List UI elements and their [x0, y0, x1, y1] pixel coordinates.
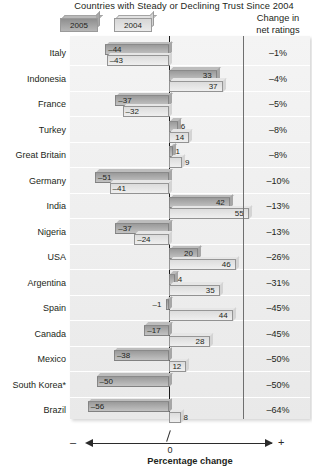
- country-label-mexico: Mexico: [0, 354, 66, 364]
- value-label-2004: 8: [184, 412, 188, 423]
- axis-plus-sign: +: [278, 436, 284, 448]
- country-label-indonesia: Indonesia: [0, 74, 66, 84]
- value-label-2005: 20: [184, 248, 193, 259]
- net-ratings-column-header: Change in net ratings: [246, 13, 310, 36]
- bar-front-face: [169, 157, 182, 168]
- country-label-italy: Italy: [0, 48, 66, 58]
- legend-label-2004: 2004: [114, 18, 152, 32]
- axis-minus-sign: –: [70, 436, 76, 448]
- chart-title: Countries with Steady or Declining Trust…: [58, 1, 310, 11]
- net-rating-usa: –26%: [246, 252, 310, 262]
- country-label-nigeria: Nigeria: [0, 227, 66, 237]
- bar-side-face: [169, 231, 172, 245]
- net-rating-argentina: –31%: [246, 278, 310, 288]
- net-rating-germany: –10%: [246, 176, 310, 186]
- net-rating-spain: –45%: [246, 303, 310, 313]
- bar-front-face: [166, 299, 170, 310]
- row-separator: [70, 193, 310, 194]
- country-label-canada: Canada: [0, 329, 66, 339]
- value-label-2004: 12: [172, 361, 181, 372]
- value-label-2005: –37: [118, 95, 131, 106]
- net-rating-mexico: –50%: [246, 354, 310, 364]
- row-separator: [70, 397, 310, 398]
- net-rating-canada: –45%: [246, 329, 310, 339]
- axis-arrow-left: [85, 439, 93, 447]
- value-label-2005: –38: [117, 350, 130, 361]
- net-rating-france: –5%: [246, 99, 310, 109]
- value-label-2004: –32: [126, 106, 139, 117]
- value-label-2005: 4: [178, 274, 182, 285]
- value-label-2004: 46: [222, 259, 231, 270]
- value-label-2005: 42: [216, 197, 225, 208]
- value-label-2005: –17: [147, 325, 160, 336]
- net-rating-turkey: –8%: [246, 125, 310, 135]
- row-separator: [70, 167, 310, 168]
- country-label-india: India: [0, 201, 66, 211]
- country-label-great-britain: Great Britain: [0, 150, 66, 160]
- chart-container: Countries with Steady or Declining Trust…: [0, 0, 312, 471]
- net-rating-india: –13%: [246, 201, 310, 211]
- country-label-south-korea-: South Korea*: [0, 380, 66, 390]
- bar-front-face: [169, 412, 181, 423]
- row-separator: [70, 244, 310, 245]
- country-label-brazil: Brazil: [0, 405, 66, 415]
- net-ratings-header-line2: net ratings: [246, 25, 310, 37]
- value-label-2004: 37: [209, 81, 218, 92]
- bar-side-face: [233, 308, 236, 322]
- bar-2004-great-britain: [169, 157, 182, 168]
- bar-2004-brazil: [169, 412, 181, 423]
- value-label-2005: –1: [153, 299, 162, 310]
- net-rating-south-korea-: –50%: [246, 380, 310, 390]
- x-axis-title: Percentage change: [70, 456, 310, 466]
- net-rating-great-britain: –8%: [246, 150, 310, 160]
- value-label-2004: –41: [113, 183, 126, 194]
- net-rating-nigeria: –13%: [246, 227, 310, 237]
- country-label-france: France: [0, 99, 66, 109]
- value-label-2005: –56: [91, 401, 104, 412]
- country-label-argentina: Argentina: [0, 278, 66, 288]
- country-label-germany: Germany: [0, 176, 66, 186]
- bar-side-face: [169, 373, 172, 387]
- value-label-2005: 33: [203, 70, 212, 81]
- net-ratings-header-line1: Change in: [246, 13, 310, 25]
- country-label-usa: USA: [0, 252, 66, 262]
- bar-side-face: [223, 78, 226, 92]
- value-label-2004: 44: [219, 310, 228, 321]
- value-label-2004: –43: [110, 55, 123, 66]
- bar-2005-spain: [166, 299, 170, 310]
- zero-tick-mark: [166, 430, 171, 442]
- bar-side-face: [169, 180, 172, 194]
- value-label-2005: –51: [98, 172, 111, 183]
- bar-side-face: [220, 282, 223, 296]
- row-separator: [70, 116, 310, 117]
- net-rating-italy: –1%: [246, 48, 310, 58]
- value-label-2004: 28: [196, 336, 205, 347]
- value-label-2005: 1: [176, 146, 180, 157]
- bar-side-face: [189, 129, 192, 143]
- x-axis: – + 0: [70, 436, 310, 452]
- net-rating-indonesia: –4%: [246, 74, 310, 84]
- bar-side-face: [210, 333, 213, 347]
- value-label-2005: 6: [181, 121, 185, 132]
- value-label-2004: 14: [175, 132, 184, 143]
- bar-side-face: [236, 257, 239, 271]
- value-label-2005: –37: [118, 223, 131, 234]
- value-label-2005: –44: [108, 44, 121, 55]
- value-label-2005: –50: [100, 376, 113, 387]
- value-label-2004: 9: [185, 157, 189, 168]
- country-label-turkey: Turkey: [0, 125, 66, 135]
- row-separator: [70, 371, 310, 372]
- axis-line: [92, 443, 272, 444]
- value-label-2004: 35: [206, 285, 215, 296]
- axis-arrow-right: [265, 439, 273, 447]
- column-divider-line: [243, 36, 244, 419]
- value-label-2004: –24: [137, 234, 150, 245]
- legend-label-2005: 2005: [60, 18, 98, 32]
- country-label-spain: Spain: [0, 303, 66, 313]
- net-rating-brazil: –64%: [246, 405, 310, 415]
- axis-zero-label: 0: [162, 445, 178, 455]
